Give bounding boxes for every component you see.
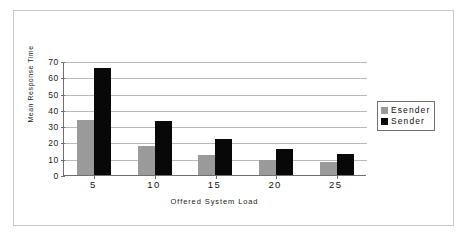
bar-esender-25 (320, 162, 337, 175)
y-axis-tick-label: 0 (54, 172, 59, 181)
y-axis-tick-label: 60 (48, 74, 59, 83)
x-axis-tick-label: 5 (90, 180, 97, 190)
bar-sender-10 (155, 121, 172, 175)
y-axis-tick-label: 10 (48, 155, 59, 164)
bar-groups (64, 61, 367, 175)
legend-item-esender: Esender (381, 105, 430, 116)
y-axis-tick-label: 70 (48, 58, 59, 67)
bar-esender-5 (77, 120, 94, 175)
x-axis-tick-label: 10 (147, 180, 160, 190)
y-axis-tick-label: 50 (48, 90, 59, 99)
bar-esender-10 (138, 146, 155, 175)
chart-figure: Mean Response Time 010203040506070 51015… (0, 0, 469, 246)
x-axis-tick-label: 20 (268, 180, 281, 190)
chart-legend: EsenderSender (377, 101, 435, 131)
bar-sender-5 (94, 68, 111, 175)
bar-sender-25 (337, 154, 354, 175)
bar-group (64, 61, 125, 175)
y-axis-tick-label: 20 (48, 139, 59, 148)
legend-swatch-icon (381, 118, 388, 125)
x-axis-tick-label: 25 (329, 180, 342, 190)
x-axis-tick-label: 15 (208, 180, 221, 190)
bar-esender-15 (198, 155, 215, 175)
plot-wrapper: 010203040506070 510152025 (63, 62, 366, 176)
plot-area: 010203040506070 (63, 62, 366, 176)
y-axis-tick-label: 30 (48, 123, 59, 132)
bar-sender-15 (215, 139, 232, 175)
bar-group (125, 61, 186, 175)
legend-swatch-icon (381, 107, 388, 114)
y-axis-title: Mean Response Time (27, 45, 34, 122)
bar-group (185, 61, 246, 175)
x-axis-title: Offered System Load (63, 198, 366, 206)
bar-sender-20 (276, 149, 293, 175)
bar-group (306, 61, 367, 175)
legend-label: Sender (391, 117, 425, 126)
legend-label: Esender (391, 106, 430, 115)
legend-item-sender: Sender (381, 116, 430, 127)
y-axis-tick-label: 40 (48, 107, 59, 116)
y-axis-tick (61, 176, 65, 177)
bar-group (246, 61, 307, 175)
bar-esender-20 (259, 160, 276, 175)
